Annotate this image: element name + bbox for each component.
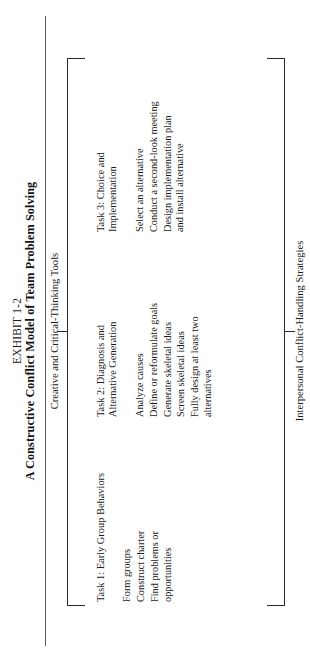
- list-item: Conduct a second-look meeting: [148, 62, 161, 232]
- exhibit-number: EXHIBIT 1-2: [11, 0, 24, 662]
- list-item: Design implementation plan and install a…: [162, 62, 188, 232]
- exhibit-title: A Constructive Conflict Model of Team Pr…: [24, 0, 38, 662]
- task-2-heading: Task 2: Diagnosis and Alternative Genera…: [95, 247, 120, 417]
- list-item: Fully design at least two alternatives: [189, 247, 215, 417]
- list-item: Construct charter: [135, 432, 148, 602]
- list-item: Analyze causes: [134, 247, 147, 417]
- bottom-bracket-label: Interpersonal Conflict-Handling Strategi…: [294, 0, 305, 662]
- page-title: EXHIBIT 1-2 A Constructive Conflict Mode…: [11, 0, 38, 662]
- title-divider: [45, 16, 46, 646]
- task-1-heading: Task 1: Early Group Behaviors: [95, 432, 107, 602]
- list-item: Form groups: [121, 432, 134, 602]
- rotated-page-wrapper: EXHIBIT 1-2 A Constructive Conflict Mode…: [5, 0, 310, 662]
- task-2-items: Analyze causes Define or reformulate goa…: [134, 247, 215, 417]
- task-1-items: Form groups Construct charter Find probl…: [121, 432, 174, 602]
- list-item: Generate skeletal ideas: [162, 247, 175, 417]
- list-item: Select an alternative: [134, 62, 147, 232]
- conflict-model-diagram: Creative and Critical-Thinking Tools Tas…: [49, 0, 310, 662]
- top-bracket: [67, 58, 85, 606]
- task-column-3: Task 3: Choice and Implementation Select…: [95, 58, 188, 236]
- bottom-bracket: [267, 58, 285, 606]
- list-item: Screen skeletal ideas: [175, 247, 188, 417]
- list-item: Define or reformulate goals: [148, 247, 161, 417]
- task-3-heading: Task 3: Choice and Implementation: [95, 62, 120, 232]
- list-item: Find problems or opportunities: [149, 432, 175, 602]
- exhibit-page: EXHIBIT 1-2 A Constructive Conflict Mode…: [5, 0, 310, 662]
- task-column-2: Task 2: Diagnosis and Alternative Genera…: [95, 243, 216, 421]
- task-columns: Task 1: Early Group Behaviors Form group…: [95, 58, 265, 606]
- top-bracket-tick: [57, 331, 68, 332]
- task-3-items: Select an alternative Conduct a second-l…: [134, 62, 187, 232]
- task-column-1: Task 1: Early Group Behaviors Form group…: [95, 428, 176, 606]
